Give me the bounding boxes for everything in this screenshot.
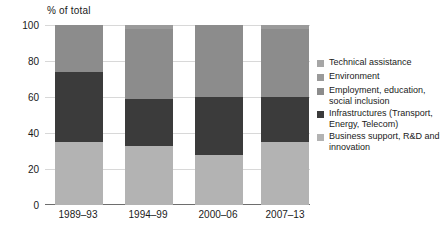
legend-swatch-icon	[317, 88, 324, 95]
bar-segment	[261, 29, 309, 97]
legend-item[interactable]: Environment	[317, 71, 448, 82]
y-tick-label: 0	[13, 200, 39, 211]
bar-segment	[125, 146, 173, 205]
chart-root: % of total 100 80 60 40 20 0 1989–93 199…	[0, 0, 448, 237]
legend-item[interactable]: Infrastructures (Transport, Energy, Tele…	[317, 108, 448, 130]
bar-segment	[261, 142, 309, 205]
legend-swatch-icon	[317, 74, 324, 81]
bar-segment	[125, 99, 173, 146]
x-tick-label: 1994–99	[115, 209, 181, 220]
legend-item[interactable]: Business support, R&D and innovation	[317, 131, 448, 153]
x-axis-tick-labels: 1989–93 1994–99 2000–06 2007–13	[45, 209, 310, 225]
legend-item-label: Employment, education, social inclusion	[329, 85, 448, 107]
x-tick-label: 2007–13	[252, 209, 318, 220]
bar-segment	[261, 97, 309, 142]
bar-segment	[125, 29, 173, 99]
bar-segment	[55, 25, 103, 72]
x-tick-label: 2000–06	[185, 209, 251, 220]
legend-swatch-icon	[317, 134, 324, 141]
y-axis-unit-label: % of total	[47, 5, 91, 16]
x-tick-label: 1989–93	[45, 209, 111, 220]
bar-segment	[55, 142, 103, 205]
chart-legend: Technical assistanceEnvironmentEmploymen…	[317, 57, 448, 154]
bar-segment	[261, 25, 309, 29]
y-tick-label: 40	[13, 128, 39, 139]
legend-swatch-icon	[317, 111, 324, 118]
y-tick-label: 60	[13, 92, 39, 103]
legend-item-label: Technical assistance	[329, 57, 412, 68]
legend-item-label: Infrastructures (Transport, Energy, Tele…	[329, 108, 448, 130]
bar-segment	[195, 155, 243, 205]
bar-segment	[55, 72, 103, 142]
y-tick-label: 20	[13, 164, 39, 175]
bar-segment	[125, 25, 173, 29]
plot-area	[45, 25, 310, 205]
bar-segment	[195, 25, 243, 97]
bar-segment	[195, 97, 243, 155]
legend-item-label: Business support, R&D and innovation	[329, 131, 448, 153]
legend-item-label: Environment	[329, 71, 380, 82]
y-tick-label: 100	[13, 20, 39, 31]
y-tick-label: 80	[13, 56, 39, 67]
legend-item[interactable]: Employment, education, social inclusion	[317, 85, 448, 107]
y-axis-tick-labels: 100 80 60 40 20 0	[13, 25, 39, 205]
legend-item[interactable]: Technical assistance	[317, 57, 448, 68]
legend-swatch-icon	[317, 60, 324, 67]
